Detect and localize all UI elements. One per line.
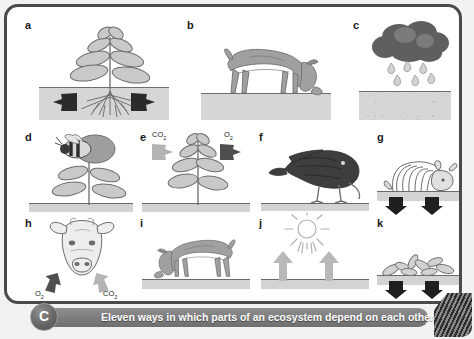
- plant-icon: [170, 133, 226, 207]
- rain-cloud-icon: [369, 21, 451, 89]
- decompose-arrow-right-icon: [421, 197, 443, 215]
- panel-g: g: [377, 131, 459, 215]
- panel-label-e: e: [140, 131, 146, 143]
- panel-c: c: [353, 19, 455, 121]
- panel-d: d: [25, 131, 137, 215]
- gas-label-co2: CO2: [103, 289, 117, 300]
- uptake-arrow-right-icon: [129, 91, 157, 113]
- panel-label-c: c: [353, 19, 359, 31]
- figure-root: a: [0, 0, 474, 339]
- panel-i: i: [140, 217, 252, 301]
- decompose-arrow-left-icon: [385, 281, 407, 299]
- panel-label-a: a: [25, 19, 31, 31]
- figure-frame: a: [4, 4, 462, 304]
- panel-a: a: [25, 19, 177, 121]
- panel-f: f: [259, 131, 371, 215]
- panel-j: j: [259, 217, 371, 301]
- panel-label-h: h: [25, 217, 32, 229]
- panel-label-d: d: [25, 131, 32, 143]
- panel-label-k: k: [377, 217, 383, 229]
- panel-label-j: j: [259, 217, 262, 229]
- bee-on-flower-icon: [45, 133, 133, 207]
- caption-badge: C: [30, 303, 58, 331]
- ground-block: [359, 91, 451, 120]
- panel-label-f: f: [259, 131, 263, 143]
- gas-label-co2: CO2: [152, 130, 166, 141]
- panel-label-g: g: [377, 131, 384, 143]
- caption-bar: Eleven ways in which parts of an ecosyst…: [44, 308, 428, 327]
- caption-text: Eleven ways in which parts of an ecosyst…: [101, 308, 434, 327]
- decompose-arrow-right-icon: [421, 281, 443, 299]
- fallen-leaves-icon: [379, 253, 457, 277]
- panel-e: e CO2 O2: [140, 131, 252, 215]
- skeleton-carcass-icon: [381, 159, 457, 195]
- uptake-arrow-left-icon: [51, 91, 79, 113]
- panel-b: b: [187, 19, 339, 121]
- panel-label-b: b: [187, 19, 194, 31]
- grazing-cow-icon: [209, 43, 325, 101]
- gas-label-o2: O2: [35, 289, 44, 300]
- o2-in-arrow-icon: [43, 273, 69, 295]
- panel-k: k: [377, 217, 459, 301]
- evaporation-arrow-right-icon: [317, 251, 341, 281]
- evaporation-arrow-left-icon: [271, 251, 295, 281]
- bird-pecking-icon: [267, 145, 367, 207]
- panel-label-i: i: [140, 217, 143, 229]
- decompose-arrow-left-icon: [385, 197, 407, 215]
- panel-h: h: [25, 217, 137, 301]
- cow-head-icon: [49, 217, 115, 281]
- grazing-cow-icon: [152, 233, 248, 285]
